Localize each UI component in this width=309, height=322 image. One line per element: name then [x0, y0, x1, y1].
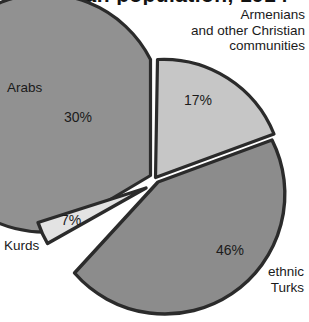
slice-value-armenians: 17% — [184, 93, 212, 108]
slice-label-kurds: Kurds — [4, 238, 39, 254]
slice-label-ethnic-turks: ethnic Turks — [194, 264, 304, 295]
slice-value-kurds: 7% — [61, 213, 81, 228]
slice-value-arabs: 30% — [64, 110, 92, 125]
pie-chart-figure: Ottoman population, 1914 Armenians and o… — [0, 0, 309, 322]
slice-label-arabs: Arabs — [7, 80, 42, 96]
slice-value-ethnic-turks: 46% — [216, 243, 244, 258]
slice-label-armenians: Armenians and other Christian communitie… — [135, 7, 305, 54]
